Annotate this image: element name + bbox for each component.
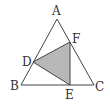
label-e: E xyxy=(65,88,74,102)
shaded-triangle-def xyxy=(33,42,70,85)
label-a: A xyxy=(51,4,61,18)
triangle-diagram: A B C D E F xyxy=(0,0,110,105)
label-d: D xyxy=(22,55,32,69)
label-b: B xyxy=(10,79,19,93)
label-f: F xyxy=(72,32,80,46)
label-c: C xyxy=(95,80,104,94)
